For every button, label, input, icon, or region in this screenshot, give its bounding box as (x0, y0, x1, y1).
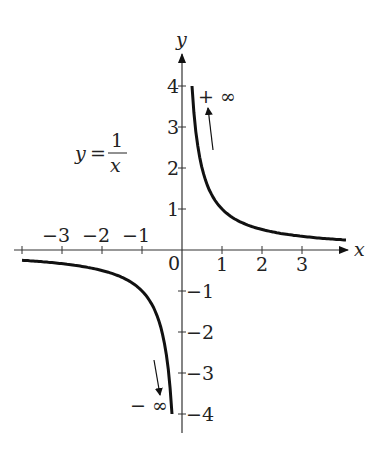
formula-label: y = 1 x (74, 129, 127, 176)
positive-branch-curve (192, 86, 346, 240)
x-tick-label: −1 (122, 224, 150, 246)
svg-text:y: y (74, 142, 86, 164)
y-axis-label: y (175, 28, 187, 50)
origin-label: 0 (168, 252, 180, 274)
svg-text:1: 1 (111, 129, 123, 151)
y-tick-label: −1 (186, 280, 214, 302)
x-tick-label: −2 (82, 224, 110, 246)
x-tick-label: 3 (296, 253, 308, 275)
plus-infinity-label: + ∞ (198, 85, 236, 107)
up-arrow-icon (208, 108, 213, 150)
down-arrow-icon (154, 360, 160, 395)
svg-text:=: = (90, 142, 106, 164)
negative-branch-curve (22, 260, 172, 414)
y-tick-label: 1 (167, 198, 179, 220)
y-tick-label: −4 (186, 403, 214, 425)
svg-text:x: x (110, 154, 121, 176)
x-tick-label: −3 (42, 224, 70, 246)
y-tick-label: 3 (167, 116, 179, 138)
y-tick-label: 2 (167, 157, 179, 179)
y-tick-label: −3 (186, 362, 214, 384)
x-tick-label: 2 (256, 253, 268, 275)
hyperbola-chart: −3−2−1123 4321−1−2−3−4 x y 0 y = 1 x + ∞… (0, 0, 380, 453)
y-tick-label: 4 (167, 75, 179, 97)
y-tick-label: −2 (186, 321, 214, 343)
x-axis-label: x (354, 238, 365, 260)
x-tick-label: 1 (216, 253, 228, 275)
minus-infinity-label: − ∞ (130, 394, 168, 416)
